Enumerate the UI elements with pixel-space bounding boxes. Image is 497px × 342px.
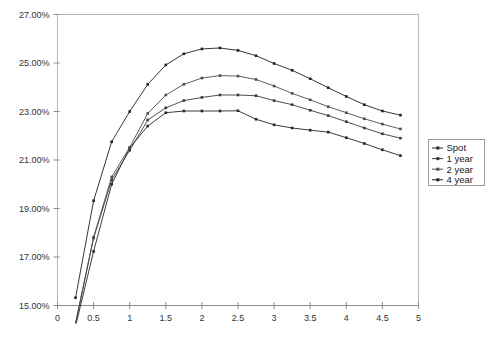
y-axis-tick-label: 15.00% xyxy=(19,301,50,311)
legend-marker-swatch xyxy=(436,147,439,150)
y-axis-tick-label: 25.00% xyxy=(19,58,50,68)
series-marker xyxy=(327,131,330,134)
series-marker xyxy=(237,75,240,78)
series-marker xyxy=(183,99,186,102)
series-marker xyxy=(273,124,276,127)
series-marker xyxy=(146,125,149,128)
series-marker xyxy=(345,120,348,123)
series-marker xyxy=(399,128,402,131)
legend-marker-swatch xyxy=(436,157,439,160)
series-marker xyxy=(291,92,294,95)
series-marker xyxy=(146,83,149,86)
y-axis: 15.00%17.00%19.00%21.00%23.00%25.00%27.0… xyxy=(19,10,60,311)
line-chart: 15.00%17.00%19.00%21.00%23.00%25.00%27.0… xyxy=(0,0,497,342)
y-axis-tick-label: 27.00% xyxy=(19,10,50,20)
y-axis-tick-label: 19.00% xyxy=(19,204,50,214)
series-marker xyxy=(345,95,348,98)
series-marker xyxy=(363,103,366,106)
series-marker xyxy=(146,112,149,115)
series-marker xyxy=(291,103,294,106)
y-axis-tick-label: 17.00% xyxy=(19,252,50,262)
series-marker xyxy=(381,149,384,152)
series-marker xyxy=(110,141,113,144)
series-marker xyxy=(165,111,168,114)
series-marker xyxy=(201,48,204,51)
series-marker xyxy=(201,77,204,80)
x-axis-tick-label: 1 xyxy=(127,313,132,323)
series-marker xyxy=(291,69,294,72)
series-marker xyxy=(399,114,402,117)
y-axis-tick-label: 23.00% xyxy=(19,107,50,117)
legend-marker-swatch xyxy=(436,168,439,171)
series-marker xyxy=(309,109,312,112)
series-marker xyxy=(128,146,131,149)
series-marker xyxy=(219,110,222,113)
series-marker xyxy=(165,107,168,110)
x-axis-tick-label: 2 xyxy=(199,313,204,323)
series-marker xyxy=(201,96,204,99)
series-marker xyxy=(309,77,312,80)
series-marker xyxy=(255,118,258,121)
series-marker xyxy=(219,47,222,50)
legend-item-label: 1 year xyxy=(447,153,473,164)
series-marker xyxy=(237,49,240,52)
series-marker xyxy=(363,142,366,145)
series-marker xyxy=(345,136,348,139)
x-axis-tick-label: 4 xyxy=(344,313,349,323)
y-axis-tick-label: 21.00% xyxy=(19,155,50,165)
series-marker xyxy=(381,123,384,126)
series-marker xyxy=(201,110,204,113)
x-axis-tick-label: 0.5 xyxy=(87,313,100,323)
series-marker xyxy=(255,94,258,97)
legend-marker-swatch xyxy=(436,178,439,181)
series-marker xyxy=(128,110,131,113)
series-marker xyxy=(183,110,186,113)
x-axis-tick-label: 2.5 xyxy=(232,313,245,323)
legend: Spot1 year2 year4 year xyxy=(429,140,485,186)
series-marker xyxy=(183,83,186,86)
series-marker xyxy=(273,62,276,65)
series-marker xyxy=(92,199,95,202)
series-marker xyxy=(327,105,330,108)
series-marker xyxy=(363,117,366,120)
series-marker xyxy=(255,78,258,81)
chart-container: 15.00%17.00%19.00%21.00%23.00%25.00%27.0… xyxy=(0,0,497,342)
legend-item-label: Spot xyxy=(447,142,467,153)
series-marker xyxy=(381,133,384,136)
series-marker xyxy=(237,109,240,112)
series-marker xyxy=(381,110,384,113)
series-marker xyxy=(255,54,258,57)
x-axis-tick-label: 1.5 xyxy=(160,313,173,323)
series-marker xyxy=(92,236,95,239)
series-marker xyxy=(219,94,222,97)
series-marker xyxy=(110,176,113,179)
x-axis-tick-label: 0 xyxy=(55,313,60,323)
series-marker xyxy=(74,296,77,299)
series-marker xyxy=(146,119,149,122)
x-axis: 00.511.522.533.544.55 xyxy=(55,302,421,323)
series-marker xyxy=(165,64,168,67)
series-marker xyxy=(309,129,312,132)
series-marker xyxy=(363,127,366,130)
series-marker xyxy=(291,127,294,130)
series-marker xyxy=(92,250,95,253)
series-marker xyxy=(165,94,168,97)
series-marker xyxy=(309,99,312,102)
series-marker xyxy=(399,154,402,157)
series-marker xyxy=(345,111,348,114)
legend-item-label: 2 year xyxy=(447,164,473,175)
x-axis-tick-label: 5 xyxy=(416,313,421,323)
x-axis-tick-label: 4.5 xyxy=(376,313,389,323)
series-marker xyxy=(219,74,222,77)
series-marker xyxy=(183,52,186,55)
x-axis-tick-label: 3 xyxy=(272,313,277,323)
series-marker xyxy=(237,94,240,97)
series-marker xyxy=(399,137,402,140)
legend-item-label: 4 year xyxy=(447,174,473,185)
series-marker xyxy=(327,86,330,89)
x-axis-tick-label: 3.5 xyxy=(304,313,317,323)
series-marker xyxy=(273,85,276,88)
series-marker xyxy=(273,99,276,102)
series-marker xyxy=(327,114,330,117)
plot-frame xyxy=(58,15,419,306)
